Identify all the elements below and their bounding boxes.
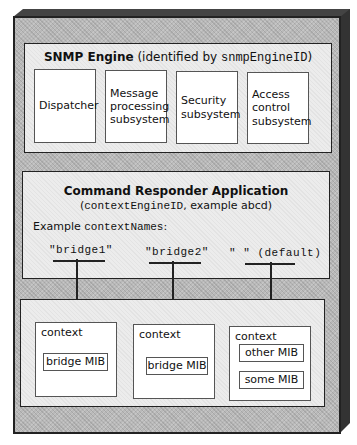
engine-title-bold: SNMP Engine <box>44 50 134 64</box>
bridge-mib-box: bridge MIB <box>146 357 208 375</box>
context-name-bridge2: "bridge2" <box>145 246 209 258</box>
bridge2-underline <box>149 262 201 264</box>
bridge-mib-box: bridge MIB <box>43 353 108 371</box>
context-box-2: context bridge MIB <box>133 324 215 399</box>
other-mib-box: other MIB <box>239 344 304 362</box>
contexts-panel: context bridge MIB context bridge MIB co… <box>20 299 325 407</box>
dispatcher-box: Dispatcher <box>34 69 96 143</box>
security-label: Security subsystem <box>181 94 240 120</box>
names-label-colon: : <box>163 220 167 233</box>
bridge1-underline <box>53 260 105 262</box>
subtitle-rest: , example abcd) <box>183 199 272 212</box>
context-box-3: context other MIB some MIB <box>229 326 311 401</box>
engine-id-mono: snmpEngineID <box>221 51 307 65</box>
context-name-bridge1: "bridge1" <box>49 244 113 256</box>
message-processing-label: Message processing subsystem <box>110 87 169 127</box>
access-control-box: Access control subsystem <box>247 72 309 144</box>
dispatcher-label: Dispatcher <box>39 99 99 112</box>
snmp-engine-panel: SNMP Engine (identified by snmpEngineID)… <box>24 43 332 153</box>
message-processing-box: Message processing subsystem <box>105 70 167 143</box>
context-label: context <box>235 330 276 343</box>
some-mib-box: some MIB <box>239 371 304 389</box>
app-title: Command Responder Application <box>23 184 329 198</box>
engine-title: SNMP Engine (identified by snmpEngineID) <box>25 50 331 65</box>
context-box-1: context bridge MIB <box>35 322 117 397</box>
access-control-label: Access control subsystem <box>252 88 311 128</box>
engine-title-rest: (identified by <box>134 50 221 64</box>
context-label: context <box>139 328 180 341</box>
context-name-default: " " (default) <box>229 247 321 259</box>
context-names-label: Example contextNames: <box>33 220 167 233</box>
command-responder-panel: Command Responder Application (contextEn… <box>22 171 330 279</box>
names-label-mono: contextNames <box>84 221 163 233</box>
names-label-text: Example <box>33 220 84 233</box>
context-engine-id-mono: contextEngineID <box>84 200 183 212</box>
security-box: Security subsystem <box>176 71 238 144</box>
app-subtitle: (contextEngineID, example abcd) <box>23 199 329 212</box>
frame-3d-side-edge <box>340 9 350 433</box>
engine-title-close: ) <box>307 50 312 64</box>
context-label: context <box>41 326 82 339</box>
